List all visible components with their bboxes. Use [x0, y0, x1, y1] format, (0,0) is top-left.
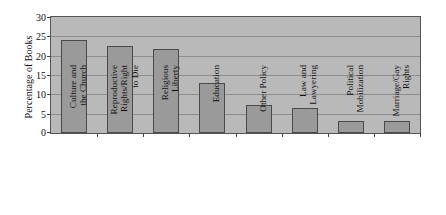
y-tick-label: 30 — [36, 12, 51, 23]
y-tick-label: 25 — [36, 31, 51, 42]
x-axis-label-line: Political — [345, 65, 355, 139]
x-axis-label: Law andLawyering — [298, 65, 338, 139]
x-axis-label-line: Reproductive — [109, 65, 119, 139]
x-axis-label-line: Liberty — [171, 65, 181, 139]
x-axis-label-line: Education — [211, 65, 221, 139]
x-axis-label: PoliticalMobilization — [345, 65, 385, 139]
x-axis-label-line: Law and — [298, 65, 308, 139]
x-axis-label-line: Religious — [160, 65, 170, 139]
gridline — [51, 36, 420, 37]
x-axis-label-line: the Church — [78, 65, 88, 139]
x-axis-label: Education — [211, 65, 251, 139]
y-tick-label: 10 — [36, 89, 51, 100]
y-tick-label: 5 — [41, 108, 51, 119]
x-axis-label: Marriage/GayRights — [391, 65, 431, 139]
x-axis-label: ReligiousLiberty — [160, 65, 200, 139]
y-axis-title: Percentage of Books — [22, 2, 36, 152]
x-axis-label-line: Marriage/Gay — [391, 65, 401, 139]
x-axis-label: Culture andthe Church — [68, 65, 108, 139]
x-axis-label-line: Mobilization — [355, 65, 365, 139]
x-axis-label-line: Lawyering — [309, 65, 319, 139]
y-tick-label: 15 — [36, 70, 51, 81]
x-axis-label-line: to Die — [130, 65, 140, 139]
x-axis-label-line: Rights/Right — [119, 65, 129, 139]
bar-chart-figure: Percentage of Books 051015202530 Culture… — [0, 0, 446, 215]
y-tick-label: 0 — [41, 127, 51, 138]
x-axis-label-line: Culture and — [68, 65, 78, 139]
x-axis-label-line: Other Policy — [258, 65, 268, 139]
y-tick-label: 20 — [36, 50, 51, 61]
x-axis-label-line: Rights — [401, 65, 411, 139]
x-axis-label: ReproductiveRights/Rightto Die — [109, 65, 149, 139]
x-axis-label: Other Policy — [258, 65, 298, 139]
